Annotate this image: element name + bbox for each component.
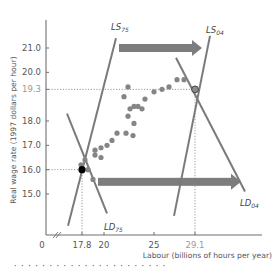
- data-point: [92, 152, 97, 157]
- y-tick-label: 16.0: [22, 165, 41, 175]
- data-point: [151, 89, 156, 94]
- x-origin-label: 0: [39, 240, 44, 250]
- caption-text: · · · · · · · · · · · · · · · · · · · · …: [14, 262, 264, 272]
- data-point: [109, 138, 114, 143]
- y-tick-label: 18.0: [22, 116, 41, 126]
- y-tick-label: 21.0: [22, 43, 41, 53]
- shift-arrow-demand-body: [98, 178, 232, 186]
- curve-label-ld75: LD75: [104, 222, 123, 233]
- y-tick-label: 15.0: [22, 189, 41, 199]
- data-point: [130, 133, 135, 138]
- data-point: [131, 121, 136, 126]
- data-point: [125, 114, 130, 119]
- data-point: [121, 94, 126, 99]
- y-tick-label: 20.0: [22, 67, 41, 77]
- x-tick-label: 20: [99, 240, 110, 250]
- data-point: [142, 97, 147, 102]
- curve-ld75: [67, 114, 107, 214]
- data-point: [166, 84, 171, 89]
- x-tick-label: 17.8: [73, 240, 92, 250]
- x-axis-title: Labour (billions of hours per year): [143, 251, 272, 260]
- equilibrium-point-2004: [192, 86, 199, 93]
- data-point: [82, 157, 87, 162]
- x-tick-label: 29.1: [186, 240, 205, 250]
- curve-label-ls75: LS75: [111, 22, 129, 33]
- data-point: [139, 106, 144, 111]
- shift-arrow-supply-head: [192, 40, 202, 56]
- curve-label-ld04: LD04: [240, 198, 259, 209]
- y-tick-label: 17.0: [22, 140, 41, 150]
- data-point: [125, 84, 130, 89]
- data-point: [90, 177, 95, 182]
- data-point: [114, 131, 119, 136]
- equilibrium-point-1975: [78, 166, 85, 173]
- data-point: [85, 167, 90, 172]
- y-tick-label: 19.3: [22, 84, 41, 94]
- x-tick-label: 25: [149, 240, 160, 250]
- data-point: [104, 143, 109, 148]
- data-point: [159, 87, 164, 92]
- data-point: [181, 77, 186, 82]
- data-point: [98, 155, 103, 160]
- shift-arrow-supply-body: [119, 44, 193, 52]
- curve-label-ls04: LS04: [206, 25, 224, 36]
- y-axis-title: Real wage rate (1997 dollars per hour): [9, 56, 18, 203]
- data-point: [123, 131, 128, 136]
- chart: 15.016.017.018.019.320.021.0017.8202529.…: [0, 0, 277, 273]
- data-point: [92, 148, 97, 153]
- data-point: [98, 145, 103, 150]
- curve-ld04: [176, 58, 245, 192]
- data-point: [174, 77, 179, 82]
